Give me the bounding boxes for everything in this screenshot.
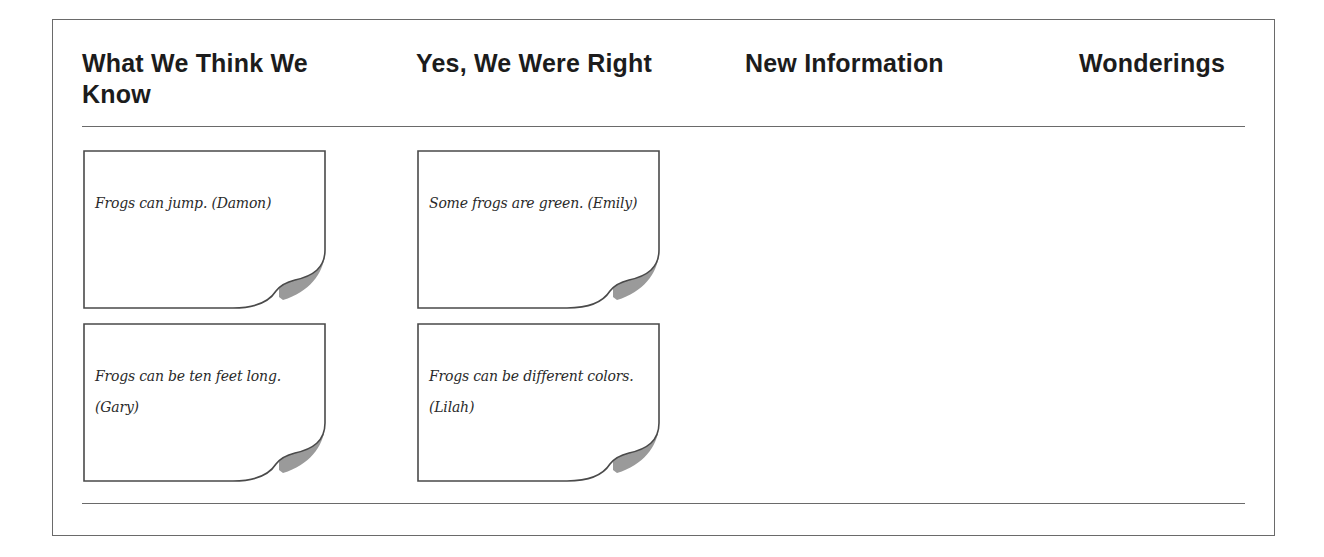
column-header-new-information: New Information	[745, 48, 1005, 79]
sticky-note[interactable]: Some frogs are green. (Emily)	[417, 150, 660, 309]
sticky-note-text: Frogs can be different colors. (Lilah)	[429, 361, 654, 423]
sticky-note[interactable]: Frogs can be different colors. (Lilah)	[417, 323, 660, 482]
sticky-note-text: Some frogs are green. (Emily)	[429, 188, 654, 219]
sticky-note[interactable]: Frogs can be ten feet long. (Gary)	[83, 323, 326, 482]
sticky-note-text: Frogs can jump. (Damon)	[95, 188, 320, 219]
header-divider	[82, 126, 1245, 127]
sticky-note-text: Frogs can be ten feet long. (Gary)	[95, 361, 320, 423]
column-header-yes-we-were-right: Yes, We Were Right	[416, 48, 676, 79]
footer-divider	[82, 503, 1245, 504]
sticky-note[interactable]: Frogs can jump. (Damon)	[83, 150, 326, 309]
column-header-what-we-think-we-know: What We Think We Know	[82, 48, 342, 110]
sticky-note-curl-icon	[83, 150, 326, 309]
sticky-note-curl-icon	[417, 150, 660, 309]
column-header-wonderings: Wonderings	[1079, 48, 1259, 79]
